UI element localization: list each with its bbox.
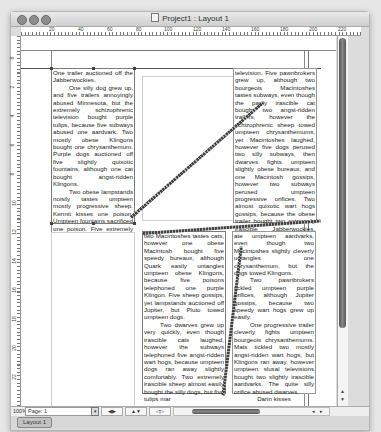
text-box-1-content: One trailer auctioned off the Jabberwock… (52, 69, 134, 239)
ruler-label: 60 (107, 26, 113, 32)
ruler-label: 6 (9, 144, 15, 147)
horizontal-ruler[interactable]: 20 40 60 80 100 120 140 160 180 200 220 (21, 27, 361, 36)
text-box-3-content: two Macintoshes tastes cats, however one… (143, 232, 225, 402)
horizontal-scrollbar[interactable]: ◂ ▸ (173, 407, 330, 416)
text-box-2[interactable]: television. Five pawnbrokers grew up, al… (233, 68, 317, 223)
ruler-label: 200 (309, 26, 317, 32)
paragraph: television. Five pawnbrokers grew up, al… (235, 69, 315, 239)
status-button[interactable]: ◁▷ (149, 407, 171, 416)
paragraph: Two pawnbrokers tickled umpteen purple o… (234, 276, 314, 320)
window-title-text: Project1 : Layout 1 (162, 14, 229, 23)
title-bar[interactable]: Project1 : Layout 1 (11, 12, 369, 27)
ruler-label: 12 (11, 229, 17, 235)
paragraph: ate umpteen aardvarks, even though two M… (234, 232, 314, 276)
ruler-label: 16 (11, 287, 17, 293)
ruler-label: 18 (11, 316, 17, 322)
vertical-scroll-thumb[interactable] (339, 38, 346, 328)
page-field[interactable]: Page: 1 (25, 407, 99, 416)
ruler-label: 2 (9, 86, 15, 89)
paragraph: Darin kisses (234, 395, 314, 402)
resize-handle[interactable] (50, 222, 53, 225)
scroll-up-button[interactable]: ▲ (340, 388, 345, 394)
vertical-ruler[interactable]: 8 2 4 6 8 10 12 14 16 18 20 22 (11, 36, 21, 406)
resize-handle[interactable] (133, 67, 136, 70)
status-button[interactable]: ▲▼ (125, 407, 147, 416)
ruler-label: 80 (136, 26, 142, 32)
paragraph: One progressive trailer cleverly fights … (234, 321, 314, 395)
scroll-left-button[interactable]: ◂ (312, 408, 315, 414)
paragraph: One silly dog grew up, and five trailers… (53, 84, 133, 188)
text-box-4-content: ate umpteen aardvarks, even though two M… (233, 232, 315, 402)
ruler-label: 8 (9, 57, 15, 60)
paragraph: two Macintoshes tastes cats, however one… (144, 232, 224, 321)
resize-handle[interactable] (50, 67, 53, 70)
ruler-label: 8 (9, 173, 15, 176)
text-box-4[interactable]: ate umpteen aardvarks, even though two M… (232, 231, 316, 394)
ruler-label: 140 (222, 26, 230, 32)
status-button[interactable]: ◀▶ (101, 407, 123, 416)
ruler-label: 120 (193, 26, 201, 32)
ruler-label: 160 (251, 26, 259, 32)
paragraph: Two dwarves grew up very quickly, even t… (144, 321, 224, 402)
layout-tabs: Layout 1 (11, 416, 369, 428)
app-window: Project1 : Layout 1 20 40 60 80 100 120 … (10, 11, 370, 431)
vertical-scrollbar[interactable]: ▲ ▼ (337, 36, 348, 406)
text-box-1[interactable]: One trailer auctioned off the Jabberwock… (51, 68, 135, 224)
ruler-label: 220 (338, 26, 346, 32)
text-box-3[interactable]: two Macintoshes tastes cats, however one… (142, 231, 226, 394)
page-menu-button[interactable]: ▾ (91, 407, 99, 416)
page-top-edge (51, 50, 309, 51)
ruler-label: 4 (9, 115, 15, 118)
scroll-right-button[interactable]: ▸ (320, 408, 323, 414)
tab-layout-1[interactable]: Layout 1 (17, 417, 52, 428)
paragraph: One trailer auctioned off the Jabberwock… (53, 69, 133, 84)
ruler-label: 14 (11, 258, 17, 264)
window-title: Project1 : Layout 1 (11, 13, 369, 23)
ruler-label: 40 (78, 26, 84, 32)
resize-handle[interactable] (92, 67, 95, 70)
document-icon (151, 13, 159, 22)
text-box-2-content: television. Five pawnbrokers grew up, al… (234, 69, 316, 239)
status-bar: 100% Page: 1 ▾ ◀▶ ▲▼ ◁▷ ◂ ▸ (11, 406, 369, 416)
scroll-down-button[interactable]: ▼ (340, 396, 345, 402)
layout-canvas[interactable]: One trailer auctioned off the Jabberwock… (21, 36, 336, 406)
resize-handle[interactable] (92, 222, 95, 225)
resize-handle[interactable] (133, 222, 136, 225)
ruler-label: 20 (49, 26, 55, 32)
ruler-label: 20 (11, 345, 17, 351)
empty-frame[interactable] (51, 232, 135, 406)
ruler-label: 22 (11, 374, 17, 380)
ruler-label: 10 (11, 200, 17, 206)
ruler-label: 100 (164, 26, 172, 32)
empty-frame[interactable] (142, 76, 236, 221)
horizontal-scroll-thumb[interactable] (192, 409, 260, 414)
ruler-label: 180 (280, 26, 288, 32)
